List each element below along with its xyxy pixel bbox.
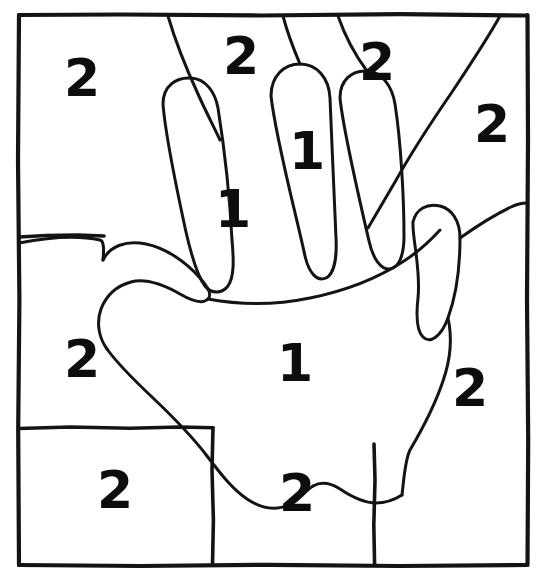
label-bottom-mid: 2 [279, 463, 315, 523]
hand-outer-right-lower [460, 203, 527, 238]
palm-upper-left-edge [19, 237, 104, 260]
hand-region-diagram: 2 2 2 2 1 1 1 2 2 2 2 [0, 0, 542, 580]
divider-bottom-left [212, 428, 213, 565]
palm-right-edge [402, 318, 450, 495]
label-bottom-left: 2 [97, 460, 133, 520]
label-far-right: 2 [474, 94, 510, 154]
region-labels: 2 2 2 2 1 1 1 2 2 2 2 [64, 26, 510, 523]
little-finger-outline [413, 205, 460, 339]
label-top-left: 2 [64, 48, 100, 108]
divider-bottom-right [374, 444, 375, 565]
label-top-mid: 2 [223, 26, 259, 86]
label-palm: 1 [277, 333, 313, 393]
label-mid-right: 2 [452, 358, 488, 418]
label-mid-left: 2 [64, 329, 100, 389]
middle-finger-top-flank [283, 16, 300, 64]
label-top-right: 2 [359, 32, 395, 92]
region-divider-lines [19, 235, 375, 565]
label-index-finger: 1 [215, 179, 251, 239]
wrist-base-curve [313, 483, 402, 503]
ring-finger-outline [340, 71, 404, 269]
label-middle-finger: 1 [289, 121, 325, 181]
figure-canvas: 2 2 2 2 1 1 1 2 2 2 2 [0, 0, 542, 580]
